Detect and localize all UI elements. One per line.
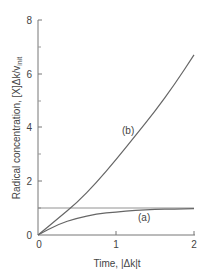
x-axis-title: Time, |Δk|t bbox=[93, 258, 140, 269]
x-tick-2: 2 bbox=[191, 239, 197, 250]
x-tick-1: 1 bbox=[113, 239, 119, 250]
y-tick-2: 2 bbox=[26, 176, 32, 187]
x-axis bbox=[38, 231, 195, 235]
series-a-label: (a) bbox=[138, 212, 150, 223]
y-tick-8: 8 bbox=[26, 15, 32, 26]
series-b-label: (b) bbox=[122, 125, 134, 136]
y-tick-0: 0 bbox=[26, 230, 32, 241]
y-axis-title: Radical concentration, [X]Δk/vinit bbox=[11, 57, 23, 199]
x-tick-0: 0 bbox=[36, 239, 42, 250]
y-tick-6: 6 bbox=[26, 69, 32, 80]
y-axis bbox=[38, 20, 42, 235]
y-tick-4: 4 bbox=[26, 122, 32, 133]
chart: 8 6 4 2 0 0 1 2 Time, |Δk|t Radical conc… bbox=[0, 0, 207, 273]
